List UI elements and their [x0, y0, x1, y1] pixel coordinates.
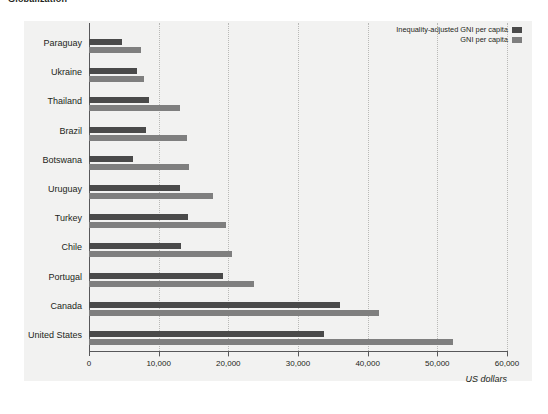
category-label: Thailand [47, 96, 82, 107]
x-tick-20000 [228, 351, 229, 356]
category-label: Botswana [42, 155, 82, 166]
x-tick-50000 [437, 351, 438, 356]
bar-iagni [89, 68, 137, 74]
chart-panel: Inequality-adjusted GNI per capitaGNI pe… [24, 21, 532, 381]
x-tick-0 [89, 351, 90, 356]
category-label: Chile [61, 242, 82, 253]
bar-iagni [89, 39, 122, 45]
bar-iagni [89, 156, 133, 162]
gridline-50000 [437, 23, 438, 357]
bar-iagni [89, 214, 188, 220]
bar-iagni [89, 273, 223, 279]
bar-gni [89, 310, 379, 316]
bar-gni [89, 105, 180, 111]
bar-gni [89, 135, 187, 141]
bar-gni [89, 339, 453, 345]
x-tick-label: 0 [87, 359, 91, 368]
bar-iagni [89, 127, 146, 133]
bar-iagni [89, 331, 324, 337]
legend-swatch-gni [512, 37, 522, 43]
bar-iagni [89, 97, 149, 103]
x-tick-label: 50,000 [425, 359, 449, 368]
category-label: Ukraine [51, 67, 82, 78]
bar-gni [89, 76, 144, 82]
x-tick-30000 [298, 351, 299, 356]
category-label: Brazil [59, 126, 82, 137]
bar-iagni [89, 185, 180, 191]
gridline-60000 [507, 23, 508, 357]
category-label: United States [28, 330, 82, 341]
category-label: Uruguay [48, 184, 82, 195]
x-tick-label: 60,000 [495, 359, 519, 368]
bar-gni [89, 251, 232, 257]
legend-swatch-iagni [512, 27, 522, 33]
bar-gni [89, 164, 189, 170]
x-tick-60000 [507, 351, 508, 356]
x-tick-label: 30,000 [286, 359, 310, 368]
x-tick-label: 10,000 [146, 359, 170, 368]
bar-iagni [89, 302, 340, 308]
bar-gni [89, 281, 254, 287]
category-label: Portugal [48, 272, 82, 283]
plot-area: US dollars 010,00020,00030,00040,00050,0… [89, 29, 507, 351]
x-tick-10000 [159, 351, 160, 356]
bar-gni [89, 193, 213, 199]
bar-iagni [89, 243, 181, 249]
bar-gni [89, 222, 226, 228]
category-label: Turkey [55, 213, 82, 224]
x-tick-label: 40,000 [355, 359, 379, 368]
bar-gni [89, 47, 141, 53]
x-tick-label: 20,000 [216, 359, 240, 368]
category-label: Canada [50, 301, 82, 312]
x-tick-40000 [368, 351, 369, 356]
x-axis-title: US dollars [465, 374, 507, 384]
gridline-40000 [368, 23, 369, 357]
figure-heading: Globalization [8, 0, 67, 3]
category-label: Paraguay [43, 38, 82, 49]
